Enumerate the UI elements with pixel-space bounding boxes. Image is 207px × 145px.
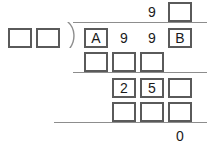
work-row-1-digit-2-box[interactable] <box>112 52 136 72</box>
work-row-1-digit-3[interactable] <box>138 50 166 74</box>
work-row-2-digit-4-box[interactable] <box>168 78 192 98</box>
final-remainder: 0 <box>166 124 194 145</box>
work-row-2-digit-2[interactable]: 2 <box>110 76 138 100</box>
work-row-1-digit-2[interactable] <box>110 50 138 74</box>
dividend-digit-2: 9 <box>110 26 138 50</box>
divisor-digit-2-box[interactable] <box>36 28 60 48</box>
dividend-digit-2-value: 9 <box>112 28 136 48</box>
work-row-3-digit-4[interactable] <box>166 100 194 124</box>
divisor-digit-1-box[interactable] <box>8 28 32 48</box>
work-row-3-digit-3-box[interactable] <box>140 102 164 122</box>
dividend-digit-1[interactable]: A <box>82 26 110 50</box>
work-row-2-digit-4[interactable] <box>166 76 194 100</box>
quotient-digit-3: 9 <box>138 0 166 24</box>
work-row-3-digit-3[interactable] <box>138 100 166 124</box>
work-row-2-digit-3[interactable]: 5 <box>138 76 166 100</box>
work-row-3-digit-4-box[interactable] <box>168 102 192 122</box>
final-remainder-value: 0 <box>168 126 192 145</box>
work-row-2-digit-3-box[interactable]: 5 <box>140 78 164 98</box>
work-row-2-digit-2-box[interactable]: 2 <box>112 78 136 98</box>
work-row-1-digit-3-box[interactable] <box>140 52 164 72</box>
quotient-digit-4-box[interactable] <box>168 2 192 22</box>
dividend-digit-1-box[interactable]: A <box>84 28 108 48</box>
quotient-digit-4[interactable] <box>166 0 194 24</box>
dividend-digit-4-box[interactable]: B <box>168 28 192 48</box>
work-row-1-digit-1-box[interactable] <box>84 52 108 72</box>
quotient-digit-3-value: 9 <box>140 2 164 22</box>
work-row-3-digit-2[interactable] <box>110 100 138 124</box>
divisor-digit-2[interactable] <box>34 26 62 50</box>
work-row-3-digit-2-box[interactable] <box>112 102 136 122</box>
division-bracket-icon <box>66 22 78 48</box>
work-row-1-rule <box>73 72 207 73</box>
divisor-digit-1[interactable] <box>6 26 34 50</box>
work-row-3-rule <box>54 122 207 123</box>
dividend-digit-3-value: 9 <box>140 28 164 48</box>
dividend-digit-4[interactable]: B <box>166 26 194 50</box>
work-row-1-digit-1[interactable] <box>82 50 110 74</box>
dividend-digit-3: 9 <box>138 26 166 50</box>
long-division-puzzle: 9 A 9 9 B 2 5 <box>0 0 207 145</box>
division-bracket-svg <box>66 22 80 48</box>
